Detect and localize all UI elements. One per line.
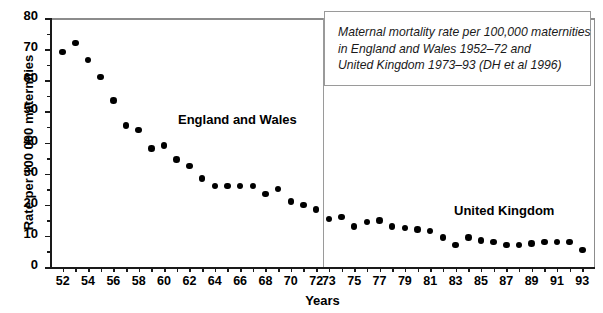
data-point bbox=[173, 156, 180, 163]
x-tick-82 bbox=[443, 267, 445, 272]
y-tick-minor-25 bbox=[47, 189, 51, 191]
y-tick-10: 10 bbox=[45, 236, 50, 238]
y-tick-50: 50 bbox=[45, 111, 50, 113]
x-tick-label-79: 79 bbox=[398, 275, 412, 288]
data-point bbox=[237, 183, 244, 190]
plot-right-border bbox=[594, 18, 596, 267]
y-tick-minor-15 bbox=[47, 220, 51, 222]
y-tick-minor-75 bbox=[47, 34, 51, 36]
x-tick-53 bbox=[75, 267, 77, 272]
data-point bbox=[250, 183, 257, 190]
x-tick-73 bbox=[329, 267, 331, 272]
data-point bbox=[490, 239, 497, 246]
x-tick-label-93: 93 bbox=[575, 275, 589, 288]
data-point bbox=[85, 57, 92, 64]
data-point bbox=[338, 214, 345, 221]
caption-box: Maternal mortality rate per 100,000 mate… bbox=[324, 11, 591, 86]
chart-figure: 01020304050607080 5254565860626466687072… bbox=[0, 0, 603, 313]
x-tick-68 bbox=[265, 267, 267, 272]
x-tick-label-66: 66 bbox=[233, 275, 247, 288]
x-tick-71 bbox=[303, 267, 305, 272]
data-point bbox=[440, 234, 447, 241]
x-tick-87 bbox=[506, 267, 508, 272]
data-point bbox=[402, 225, 409, 232]
x-tick-label-52: 52 bbox=[56, 275, 70, 288]
x-axis-line bbox=[50, 267, 595, 269]
data-point bbox=[288, 198, 295, 205]
y-tick-80: 80 bbox=[45, 18, 50, 20]
data-point bbox=[427, 228, 434, 235]
caption-line-3: United Kingdom 1973–93 (DH et al 1996) bbox=[338, 57, 577, 74]
data-point bbox=[224, 183, 231, 190]
x-tick-label-54: 54 bbox=[81, 275, 95, 288]
data-point bbox=[364, 219, 371, 226]
x-tick-label-83: 83 bbox=[449, 275, 463, 288]
x-tick-81 bbox=[430, 267, 432, 272]
x-tick-67 bbox=[253, 267, 255, 272]
x-tick-label-75: 75 bbox=[347, 275, 361, 288]
x-tick-56 bbox=[113, 267, 115, 272]
x-tick-label-62: 62 bbox=[182, 275, 196, 288]
x-tick-61 bbox=[177, 267, 179, 272]
y-tick-minor-55 bbox=[47, 96, 51, 98]
y-tick-40: 40 bbox=[45, 143, 50, 145]
data-point bbox=[110, 97, 117, 104]
y-tick-minor-65 bbox=[47, 65, 51, 67]
data-point bbox=[123, 122, 130, 129]
x-tick-label-81: 81 bbox=[423, 275, 437, 288]
caption-line-1: Maternal mortality rate per 100,000 mate… bbox=[338, 24, 577, 41]
data-point bbox=[554, 239, 561, 246]
x-tick-57 bbox=[126, 267, 128, 272]
x-tick-89 bbox=[532, 267, 534, 272]
data-point bbox=[59, 49, 66, 56]
data-point bbox=[566, 239, 573, 246]
data-point bbox=[212, 183, 219, 190]
data-point bbox=[97, 74, 104, 81]
x-tick-65 bbox=[227, 267, 229, 272]
x-tick-76 bbox=[367, 267, 369, 272]
x-tick-label-58: 58 bbox=[132, 275, 146, 288]
y-tick-30: 30 bbox=[45, 174, 50, 176]
x-tick-91 bbox=[557, 267, 559, 272]
data-point bbox=[186, 163, 193, 170]
x-tick-92 bbox=[570, 267, 572, 272]
data-point bbox=[376, 217, 383, 224]
x-tick-label-89: 89 bbox=[525, 275, 539, 288]
data-point bbox=[452, 242, 459, 249]
data-point bbox=[579, 247, 586, 254]
x-tick-75 bbox=[354, 267, 356, 272]
x-tick-58 bbox=[139, 267, 141, 272]
x-tick-80 bbox=[418, 267, 420, 272]
data-point bbox=[161, 142, 168, 149]
x-tick-79 bbox=[405, 267, 407, 272]
data-point bbox=[528, 240, 535, 247]
x-tick-label-87: 87 bbox=[499, 275, 513, 288]
x-tick-88 bbox=[519, 267, 521, 272]
x-tick-86 bbox=[494, 267, 496, 272]
x-tick-69 bbox=[278, 267, 280, 272]
x-tick-label-56: 56 bbox=[106, 275, 120, 288]
x-tick-93 bbox=[582, 267, 584, 272]
data-point bbox=[541, 239, 548, 246]
data-point bbox=[199, 175, 206, 182]
x-tick-59 bbox=[151, 267, 153, 272]
x-tick-85 bbox=[481, 267, 483, 272]
data-point bbox=[135, 127, 142, 134]
x-tick-52 bbox=[63, 267, 65, 272]
x-axis-title: Years bbox=[50, 294, 595, 307]
x-tick-70 bbox=[291, 267, 293, 272]
data-point bbox=[148, 145, 155, 152]
x-tick-84 bbox=[468, 267, 470, 272]
x-tick-74 bbox=[342, 267, 344, 272]
y-tick-60: 60 bbox=[45, 80, 50, 82]
data-point bbox=[262, 191, 269, 198]
x-tick-label-85: 85 bbox=[474, 275, 488, 288]
x-tick-83 bbox=[456, 267, 458, 272]
x-tick-label-77: 77 bbox=[373, 275, 387, 288]
x-tick-60 bbox=[164, 267, 166, 272]
x-tick-90 bbox=[544, 267, 546, 272]
x-tick-54 bbox=[88, 267, 90, 272]
y-tick-minor-5 bbox=[47, 251, 51, 253]
data-point bbox=[351, 223, 358, 230]
x-tick-label-70: 70 bbox=[284, 275, 298, 288]
